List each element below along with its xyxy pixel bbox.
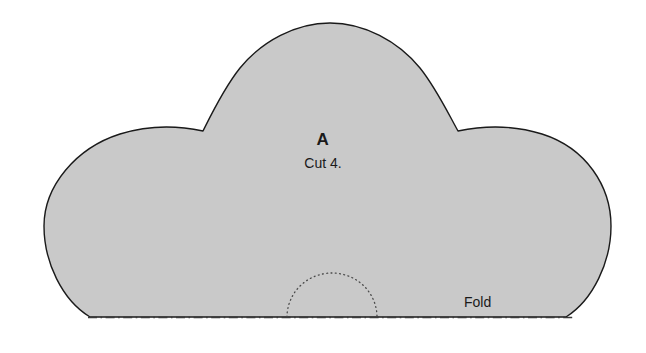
pattern-drawing-canvas	[0, 0, 646, 353]
fold-edge-label: Fold	[464, 294, 491, 310]
pattern-piece-letter: A	[0, 130, 646, 150]
cut-instruction-label: Cut 4.	[0, 155, 646, 171]
